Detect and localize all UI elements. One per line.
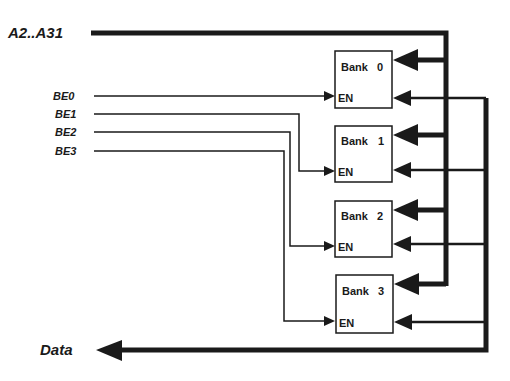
be1-label: BE1 [55,108,76,120]
be3-arrowhead-icon [324,316,335,326]
data-arrowhead-bank-0-icon [393,90,411,106]
be2-arrowhead-icon [324,241,335,251]
bank-2: Bank 2 EN [335,201,392,257]
data-bus-label: Data [40,341,73,358]
address-arrowhead-bank-0-icon [393,49,418,71]
bank-0: Bank 0 EN [335,51,392,108]
be1-line [94,114,326,171]
bank-3-index: 3 [378,285,384,297]
be3-line [94,151,326,321]
data-arrowhead-bank-2-icon [393,236,411,252]
bank-2-index: 2 [377,210,383,222]
be0-arrowhead-icon [324,91,335,101]
bank-1-index: 1 [378,135,384,147]
bank-3: Bank 3 EN [336,275,393,333]
be0-label: BE0 [53,90,75,102]
data-arrowhead-bank-1-icon [393,162,411,178]
be1-arrowhead-icon [324,166,335,176]
address-arrowhead-bank-2-icon [393,199,418,221]
be2-line [94,132,326,246]
bank-0-index: 0 [377,61,383,73]
bank-0-name: Bank [341,61,369,73]
memory-bank-diagram: A2..A31 Data BE0 BE1 BE2 BE3 Bank 0 EN B… [0,0,510,381]
bank-1-en-label: EN [338,166,353,178]
address-arrowhead-bank-3-icon [394,273,419,295]
bank-3-name: Bank [342,285,370,297]
be2-label: BE2 [55,126,76,138]
bank-1: Bank 1 EN [335,126,392,182]
data-bus-arrowhead-icon [96,340,122,361]
be3-label: BE3 [55,145,76,157]
bank-0-en-label: EN [338,92,353,104]
data-arrowhead-bank-3-icon [394,314,412,330]
bank-2-name: Bank [341,210,369,222]
address-bus-label: A2..A31 [7,24,63,41]
bank-1-name: Bank [341,135,369,147]
bank-2-en-label: EN [338,241,353,253]
bank-3-en-label: EN [339,317,354,329]
address-arrowhead-bank-1-icon [393,124,418,146]
